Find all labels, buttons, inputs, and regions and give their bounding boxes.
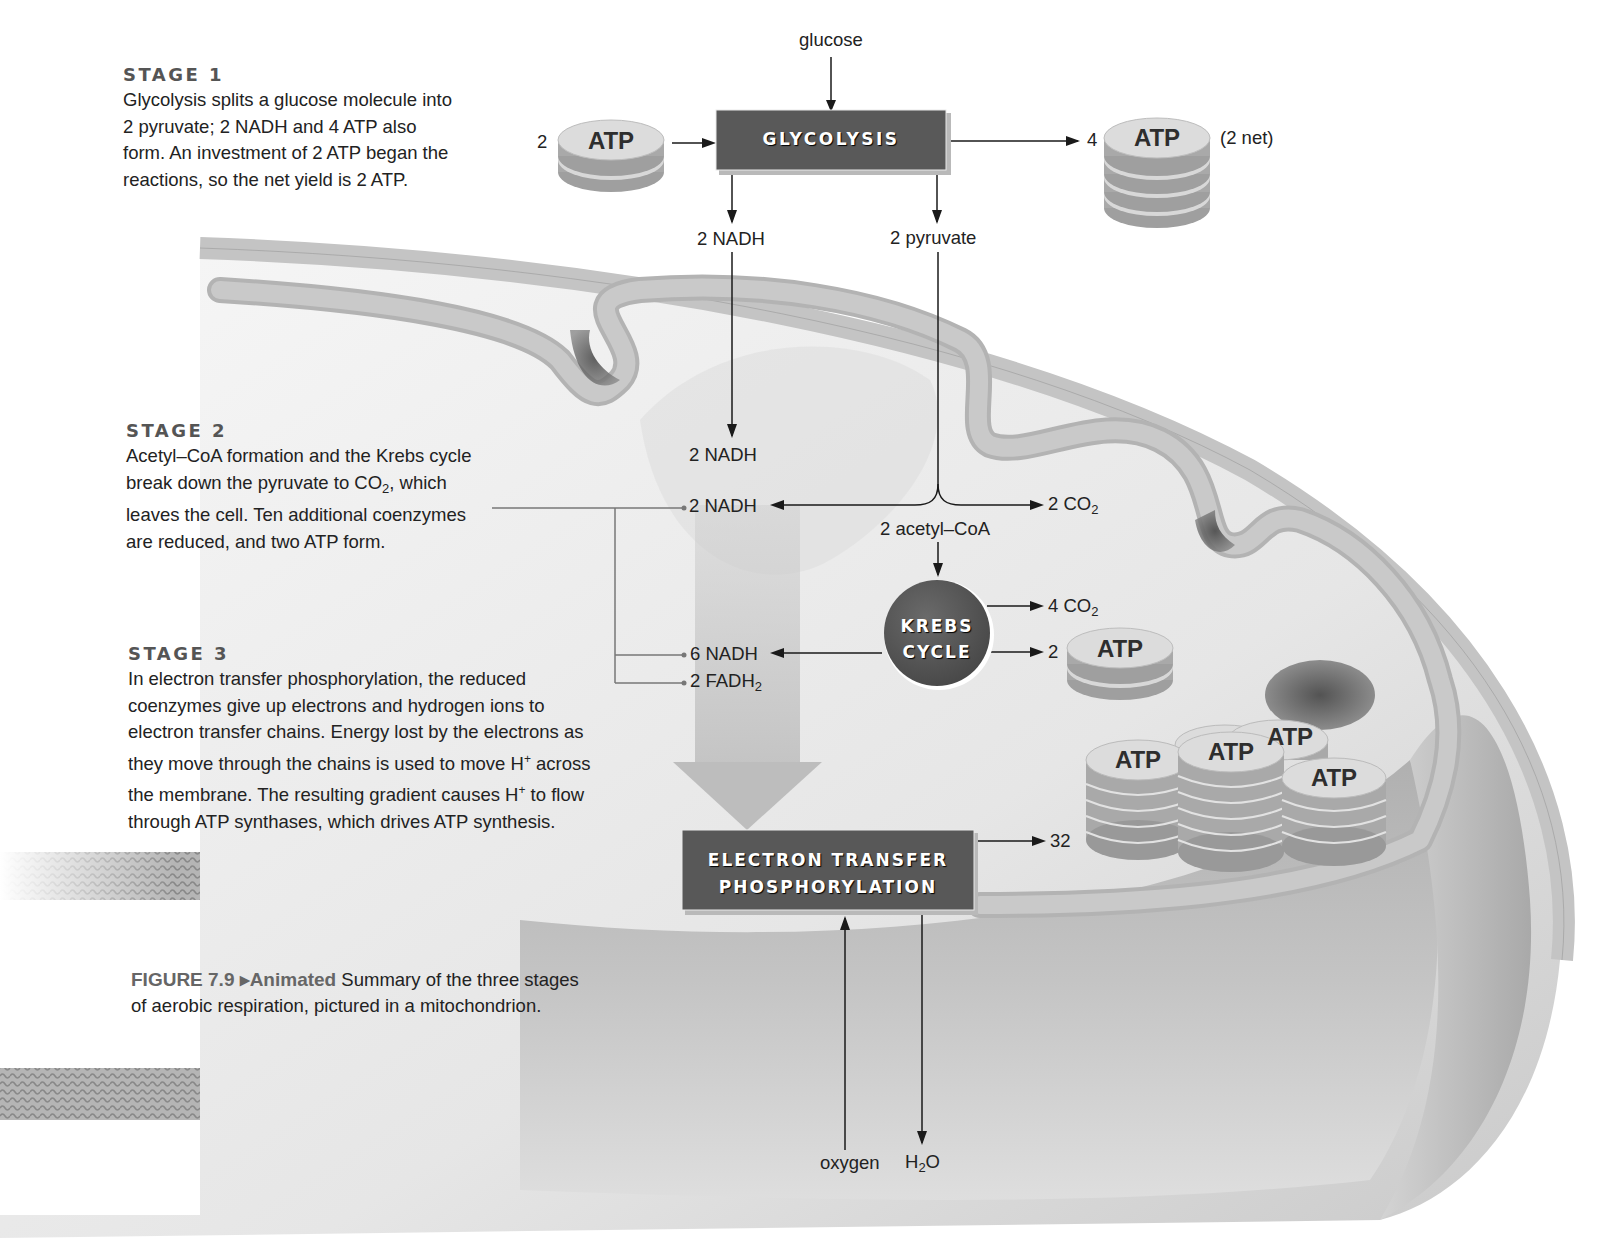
atp-label: ATP [1104, 124, 1210, 152]
co2-acetyl-label: 2 CO2 [1048, 493, 1098, 517]
nadh-acetyl-label: 2 NADH [689, 495, 757, 517]
atp-net-label: (2 net) [1220, 127, 1273, 149]
stage-1-title: STAGE 1 [123, 64, 452, 85]
stage-3-panel: STAGE 3 In electron transfer phosphoryla… [128, 643, 591, 835]
caption-text: Summary of the three stages [341, 969, 579, 990]
stage-1-description: Glycolysis splits a glucose molecule int… [123, 87, 452, 193]
stage-1-line: reactions, so the net yield is 2 ATP. [123, 167, 452, 194]
pyruvate-label: 2 pyruvate [890, 227, 976, 249]
oxygen-label: oxygen [820, 1152, 880, 1174]
atp-label: ATP [1067, 635, 1173, 663]
stage-2-line: Acetyl–CoA formation and the Krebs cycle [126, 443, 472, 470]
stage-1-line: form. An investment of 2 ATP began the [123, 140, 452, 167]
atp-input-count: 2 [537, 131, 547, 153]
stage-3-line: they move through the chains is used to … [128, 746, 591, 778]
nadh-krebs-label: 6 NADH [690, 643, 758, 665]
atp-output-count: 4 [1087, 129, 1097, 151]
atp-krebs-count: 2 [1048, 641, 1058, 663]
animated-tag: ▸Animated [240, 969, 337, 990]
figure-number: FIGURE 7.9 [131, 969, 234, 990]
acetyl-coa-label: 2 acetyl–CoA [880, 518, 990, 540]
stage-1-panel: STAGE 1 Glycolysis splits a glucose mole… [123, 64, 452, 193]
stage-2-title: STAGE 2 [126, 420, 472, 441]
stage-3-line: electron transfer chains. Energy lost by… [128, 719, 591, 746]
stage-2-line: are reduced, and two ATP form. [126, 529, 472, 556]
figure-caption: FIGURE 7.9 ▸Animated Summary of the thre… [131, 967, 579, 1019]
atp-etp-count: 32 [1050, 830, 1071, 852]
stage-1-line: Glycolysis splits a glucose molecule int… [123, 87, 452, 114]
glycolysis-box: GLYCOLYSIS [716, 129, 946, 149]
stage-3-line: coenzymes give up electrons and hydrogen… [128, 693, 591, 720]
stage-3-description: In electron transfer phosphorylation, th… [128, 666, 591, 835]
stage-3-line: through ATP synthases, which drives ATP … [128, 809, 591, 836]
stage-3-line: the membrane. The resulting gradient cau… [128, 777, 591, 809]
glucose-label: glucose [799, 29, 863, 51]
atp-label: ATP [1250, 723, 1330, 751]
fadh2-label: 2 FADH2 [690, 670, 762, 694]
water-label: H2O [905, 1151, 940, 1175]
nadh-glycolysis-label: 2 NADH [697, 228, 765, 250]
co2-krebs-label: 4 CO2 [1048, 595, 1098, 619]
stage-1-line: 2 pyruvate; 2 NADH and 4 ATP also [123, 114, 452, 141]
caption-text: of aerobic respiration, pictured in a mi… [131, 993, 579, 1019]
electron-transfer-phosphorylation-box: ELECTRON TRANSFER PHOSPHORYLATION [682, 847, 974, 901]
stage-3-line: In electron transfer phosphorylation, th… [128, 666, 591, 693]
coenzyme-flow-arrow [673, 505, 822, 830]
stage-3-title: STAGE 3 [128, 643, 591, 664]
atp-label: ATP [558, 127, 664, 155]
stage-2-description: Acetyl–CoA formation and the Krebs cycle… [126, 443, 472, 555]
stage-2-line: break down the pyruvate to CO2, which [126, 470, 472, 503]
atp-label: ATP [1086, 746, 1190, 774]
nadh-delivered-label: 2 NADH [689, 444, 757, 466]
stage-2-line: leaves the cell. Ten additional coenzyme… [126, 502, 472, 529]
krebs-cycle-circle: KREBS CYCLE [884, 613, 990, 665]
stage-2-panel: STAGE 2 Acetyl–CoA formation and the Kre… [126, 420, 472, 555]
atp-label: ATP [1282, 764, 1386, 792]
